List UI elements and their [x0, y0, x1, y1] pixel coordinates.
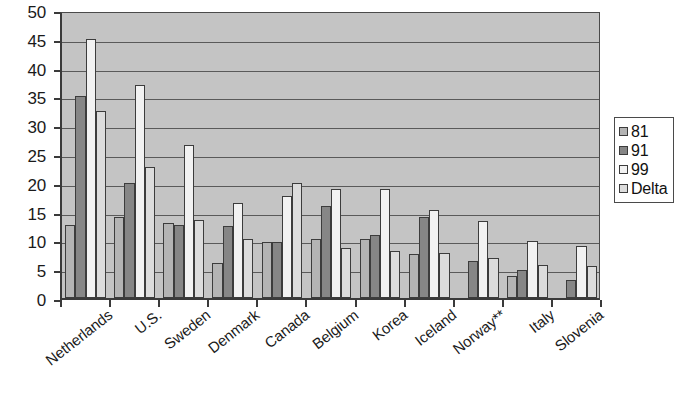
- bar: [587, 266, 597, 298]
- bar-group: [307, 13, 356, 298]
- bar: [174, 225, 184, 298]
- bar: [468, 261, 478, 298]
- bar-group: [455, 13, 504, 298]
- y-tick-label: 45: [27, 32, 46, 49]
- y-tick-label: 25: [27, 148, 46, 165]
- bar: [262, 242, 272, 298]
- y-tick-label: 35: [27, 90, 46, 107]
- bar-group: [357, 13, 406, 298]
- x-axis-label: Denmark: [205, 306, 263, 356]
- bar: [409, 254, 419, 298]
- y-tick-label: 40: [27, 61, 46, 78]
- bars-layer: [62, 13, 599, 298]
- bar: [360, 239, 370, 298]
- x-axis-label: U.S.: [132, 306, 165, 337]
- bar: [65, 225, 75, 298]
- legend-label: 91: [631, 143, 648, 159]
- x-axis-label: Netherlands: [42, 306, 115, 369]
- x-axis-label: Slovenia: [551, 306, 606, 354]
- legend-label: 81: [631, 124, 648, 140]
- bar-chart: 05101520253035404550 NetherlandsU.S.Swed…: [0, 0, 698, 411]
- bar-group: [504, 13, 553, 298]
- bar: [488, 258, 498, 298]
- bar: [75, 96, 85, 298]
- bar: [517, 270, 527, 298]
- bar: [233, 203, 243, 298]
- bar: [390, 251, 400, 298]
- bar: [96, 111, 106, 298]
- bar-group: [62, 13, 111, 298]
- y-tick-label: 15: [27, 205, 46, 222]
- chart-legend: 819199Delta: [614, 117, 674, 203]
- bar: [331, 189, 341, 298]
- bar-group: [209, 13, 258, 298]
- bar: [86, 39, 96, 298]
- bar: [243, 239, 253, 298]
- bar-group: [160, 13, 209, 298]
- bar: [212, 263, 222, 298]
- x-axis-label: Canada: [261, 306, 312, 351]
- bar: [341, 248, 351, 298]
- y-tick-label: 30: [27, 119, 46, 136]
- bar: [429, 210, 439, 298]
- legend-label: Delta: [631, 181, 667, 197]
- bar: [419, 217, 429, 298]
- y-tick-label: 5: [37, 263, 46, 280]
- bar: [194, 220, 204, 298]
- bar: [135, 85, 145, 298]
- bar: [321, 206, 331, 298]
- bar: [282, 196, 292, 298]
- bar-group: [111, 13, 160, 298]
- legend-item: 91: [619, 141, 667, 160]
- plot-area: [60, 12, 600, 300]
- bar: [380, 189, 390, 298]
- legend-swatch-icon: [619, 127, 628, 136]
- bar: [311, 239, 321, 298]
- legend-swatch-icon: [619, 184, 628, 193]
- legend-items: 819199Delta: [619, 122, 667, 198]
- x-axis-label: Korea: [369, 306, 411, 344]
- x-axis-labels: NetherlandsU.S.SwedenDenmarkCanadaBelgiu…: [0, 306, 698, 411]
- bar-group: [553, 13, 602, 298]
- legend-item: Delta: [619, 179, 667, 198]
- x-axis-label: Norway**: [449, 306, 508, 357]
- x-axis-label: Belgium: [308, 306, 361, 352]
- bar: [292, 183, 302, 298]
- legend-label: 99: [631, 162, 648, 178]
- bar: [145, 167, 155, 298]
- bar-group: [258, 13, 307, 298]
- bar: [184, 145, 194, 298]
- x-axis-label: Italy: [526, 306, 558, 336]
- bar: [527, 241, 537, 298]
- bar: [114, 217, 124, 298]
- bar: [538, 265, 548, 298]
- bar: [223, 226, 233, 298]
- y-tick-label: 20: [27, 176, 46, 193]
- bar: [478, 221, 488, 298]
- bar: [566, 280, 576, 298]
- y-tick-label: 10: [27, 234, 46, 251]
- bar: [507, 276, 517, 298]
- bar: [370, 235, 380, 298]
- bar: [272, 242, 282, 298]
- legend-item: 81: [619, 122, 667, 141]
- bar-group: [406, 13, 455, 298]
- y-axis: 05101520253035404550: [0, 12, 54, 300]
- bar: [439, 253, 449, 298]
- bar: [163, 223, 173, 298]
- legend-swatch-icon: [619, 146, 628, 155]
- bar: [124, 183, 134, 298]
- legend-item: 99: [619, 160, 667, 179]
- y-tick-label: 50: [27, 4, 46, 21]
- legend-swatch-icon: [619, 165, 628, 174]
- bar: [576, 246, 586, 298]
